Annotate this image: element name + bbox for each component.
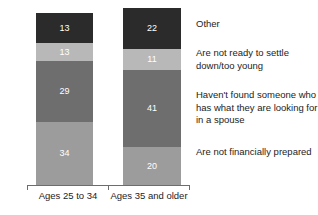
segment-havent-found[interactable]: 41: [123, 70, 181, 147]
segment-value-label: 20: [147, 162, 157, 171]
segment-value-label: 41: [147, 104, 157, 113]
legend-item-havent-found-someone: Haven't found someone who has what they …: [196, 89, 318, 127]
segment-not-financially[interactable]: 34: [36, 122, 93, 185]
category-label-ages-25-to-34: Ages 25 to 34: [27, 191, 109, 202]
segment-value-label: 13: [59, 48, 69, 57]
segment-other[interactable]: 22: [123, 8, 181, 49]
segment-value-label: 29: [59, 87, 69, 96]
axis-tick-middle: [108, 185, 109, 190]
legend-item-other: Other: [196, 18, 318, 31]
category-label-ages-35-and-older: Ages 35 and older: [108, 191, 190, 202]
bar-ages-35-and-older: 22 11 41 20: [123, 8, 181, 185]
stacked-bar-chart: 13 13 29 34 22 11 41 20 Ages 25 to 34 Ag…: [0, 0, 318, 215]
legend-item-not-ready-to-settle-down: Are not ready to settle down/too young: [196, 47, 318, 72]
segment-value-label: 13: [59, 24, 69, 33]
segment-not-financially[interactable]: 20: [123, 147, 181, 185]
segment-havent-found[interactable]: 29: [36, 61, 93, 122]
segment-value-label: 22: [147, 24, 157, 33]
segment-other[interactable]: 13: [36, 13, 93, 43]
bar-ages-25-to-34: 13 13 29 34: [36, 13, 93, 185]
segment-value-label: 11: [147, 55, 157, 64]
segment-value-label: 34: [59, 149, 69, 158]
legend-item-not-financially-prepared: Are not financially prepared: [196, 146, 318, 159]
axis-tick-left: [27, 185, 28, 190]
segment-not-ready[interactable]: 11: [123, 49, 181, 70]
axis-tick-right: [189, 185, 190, 190]
segment-not-ready[interactable]: 13: [36, 43, 93, 61]
